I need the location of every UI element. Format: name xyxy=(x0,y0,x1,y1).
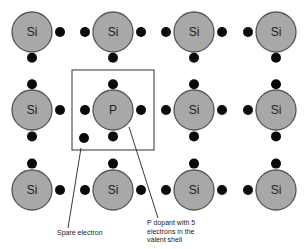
electron-dot xyxy=(27,159,37,169)
silicon-atom: Si xyxy=(12,12,52,52)
electron-dot xyxy=(27,53,37,63)
silicon-atom: Si xyxy=(174,90,214,130)
electron-dot xyxy=(108,79,118,89)
electron-dot xyxy=(271,79,281,89)
atom-symbol: Si xyxy=(189,25,200,39)
electron-dot xyxy=(189,159,199,169)
electron-dot xyxy=(55,27,65,37)
electron-dot xyxy=(271,131,281,141)
electron-dot xyxy=(27,131,37,141)
silicon-atom: Si xyxy=(174,170,214,210)
silicon-atom: Si xyxy=(93,170,133,210)
electron-dot xyxy=(80,185,90,195)
electron-dot xyxy=(189,53,199,63)
electron-dot xyxy=(80,105,90,115)
electron-dot xyxy=(271,53,281,63)
electron-dot xyxy=(108,159,118,169)
electron-dot xyxy=(217,185,227,195)
electron-dot xyxy=(189,79,199,89)
electron-dot xyxy=(271,159,281,169)
atom-symbol: Si xyxy=(27,103,38,117)
atom-symbol: Si xyxy=(27,25,38,39)
atom-symbol: Si xyxy=(108,183,119,197)
silicon-atom: Si xyxy=(256,170,296,210)
electron-dot xyxy=(161,105,171,115)
spare-electron-label: Spare electron xyxy=(57,229,103,238)
silicon-atom: Si xyxy=(256,90,296,130)
electron-dot xyxy=(243,105,253,115)
electron-dot xyxy=(217,27,227,37)
silicon-atom: Si xyxy=(93,12,133,52)
atom-symbol: Si xyxy=(271,183,282,197)
atom-symbol: P xyxy=(109,103,117,117)
electron-dot xyxy=(108,131,118,141)
electron-dot xyxy=(136,185,146,195)
silicon-atom: Si xyxy=(174,12,214,52)
spare-electron-leader-line xyxy=(68,148,81,228)
electron-dot xyxy=(161,27,171,37)
silicon-lattice-diagram: SiSiSiSiSiPSiSiSiSiSiSi xyxy=(0,0,307,249)
silicon-atom: Si xyxy=(256,12,296,52)
electron-dot xyxy=(161,185,171,195)
electron-dot xyxy=(243,27,253,37)
electron-dot xyxy=(55,105,65,115)
atom-symbol: Si xyxy=(271,25,282,39)
atom-symbol: Si xyxy=(189,183,200,197)
spare-electron-dot xyxy=(79,133,89,143)
silicon-atom: Si xyxy=(12,90,52,130)
p-dopant-label: P dopant with 5 electrons in the valent … xyxy=(147,219,195,245)
atom-symbol: Si xyxy=(271,103,282,117)
electron-dot xyxy=(243,185,253,195)
atom-symbol: Si xyxy=(27,183,38,197)
electron-dot xyxy=(108,53,118,63)
electron-dot xyxy=(136,27,146,37)
electron-dot xyxy=(136,105,146,115)
electron-dot xyxy=(55,185,65,195)
electron-dot xyxy=(217,105,227,115)
atom-symbol: Si xyxy=(108,25,119,39)
silicon-atom: Si xyxy=(12,170,52,210)
electron-dot xyxy=(27,79,37,89)
atom-symbol: Si xyxy=(189,103,200,117)
electron-dot xyxy=(189,131,199,141)
phosphorus-atom: P xyxy=(93,90,133,130)
electron-dot xyxy=(80,27,90,37)
